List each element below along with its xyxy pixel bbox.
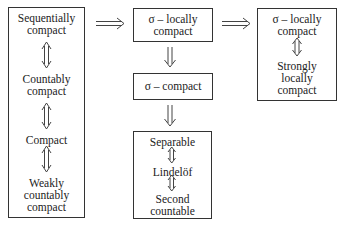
iff-arrow-separable-lindelof — [168, 147, 176, 163]
implies-arrow-down-to-countability — [165, 105, 176, 126]
implies-arrow-middle-to-right — [222, 18, 250, 29]
implies-arrow-left-to-middle — [96, 18, 124, 29]
iff-arrow-compact-weakly — [42, 146, 51, 172]
implies-arrow-down-to-sigma-compact — [165, 47, 176, 67]
arrows-layer — [0, 0, 344, 232]
iff-arrow-sequential-countable — [42, 42, 51, 68]
iff-arrow-sigma-locally-strongly — [293, 38, 302, 56]
iff-arrow-countable-compact — [42, 103, 51, 129]
iff-arrow-lindelof-second-countable — [168, 175, 176, 191]
